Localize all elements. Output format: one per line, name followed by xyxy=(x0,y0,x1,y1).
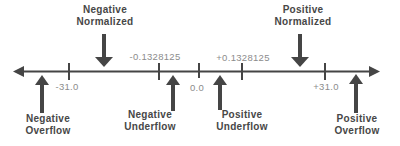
axis-value-neg-31: -31.0 xyxy=(55,82,78,92)
negative-overflow-label: Negative Overflow xyxy=(25,113,70,137)
positive-normalized-label: Positive Normalized xyxy=(275,4,332,28)
right-arrowhead-icon xyxy=(369,66,380,77)
positive-overflow-label: Positive Overflow xyxy=(334,113,379,137)
floating-point-number-line-diagram: Negative Normalized Positive Normalized … xyxy=(0,0,400,146)
left-arrowhead-icon xyxy=(13,66,24,77)
positive-underflow-label: Positive Underflow xyxy=(216,109,268,133)
positive-normalized-down-arrow-icon xyxy=(291,34,309,67)
negative-underflow-up-arrow-icon xyxy=(166,75,180,111)
negative-underflow-label: Negative Underflow xyxy=(124,109,176,133)
negative-normalized-label: Negative Normalized xyxy=(77,4,134,28)
axis-value-zero: 0.0 xyxy=(190,83,204,93)
axis-value-pos-0-1328125: +0.1328125 xyxy=(216,53,269,63)
negative-normalized-down-arrow-icon xyxy=(95,34,113,67)
negative-overflow-up-arrow-icon xyxy=(35,75,49,113)
axis-value-neg-0-1328125: -0.1328125 xyxy=(129,52,180,62)
axis-value-pos-31: +31.0 xyxy=(313,82,339,92)
positive-underflow-up-arrow-icon xyxy=(213,75,227,110)
positive-overflow-up-arrow-icon xyxy=(349,74,363,113)
